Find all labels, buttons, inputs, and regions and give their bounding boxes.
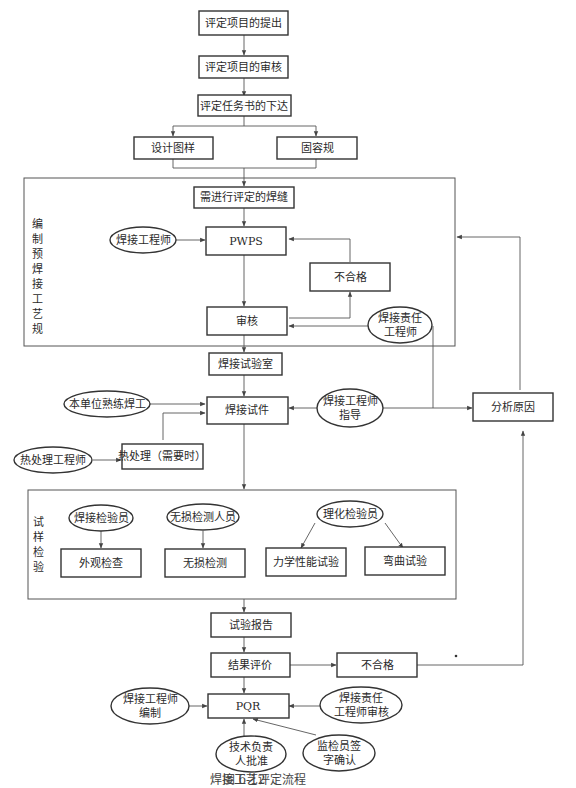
svg-text:焊接工程师: 焊接工程师: [123, 692, 178, 706]
figure-caption: 图 6-12 焊接工艺评定流程: [210, 772, 306, 787]
svg-text:力学性能试验: 力学性能试验: [273, 555, 339, 569]
step-ndt[interactable]: 无损检测: [165, 549, 245, 577]
step-review[interactable]: 评定项目的审核: [199, 56, 288, 78]
svg-text:规: 规: [32, 322, 43, 336]
svg-text:编: 编: [32, 217, 43, 231]
stray-dot: [455, 655, 458, 658]
step-visual-inspection[interactable]: 外观检查: [61, 549, 141, 577]
svg-text:编制: 编制: [139, 706, 161, 720]
svg-text:焊接工艺评定流程: 焊接工艺评定流程: [210, 772, 306, 787]
svg-text:弯曲试验: 弯曲试验: [383, 554, 427, 568]
step-analyze-cause[interactable]: 分析原因: [473, 393, 553, 421]
svg-text:理化检验员: 理化检验员: [323, 507, 378, 521]
svg-text:PQR: PQR: [236, 700, 261, 713]
svg-text:外观检查: 外观检查: [79, 556, 123, 570]
prepare-wps-group-label: 编 制 预 焊 接 工 艺 规 程: [32, 217, 43, 336]
svg-text:结果评价: 结果评价: [228, 659, 272, 672]
step-pwps-review[interactable]: 审核: [207, 307, 287, 335]
specimen-inspection-group-label: 试 样 检 验: [33, 516, 44, 574]
role-responsible-engineer-audit[interactable]: 焊接责任 工程师审核: [320, 687, 402, 723]
svg-text:评定项目的提出: 评定项目的提出: [205, 16, 282, 30]
svg-text:艺: 艺: [32, 308, 43, 321]
role-skilled-welder[interactable]: 本单位熟练焊工: [64, 391, 150, 417]
svg-text:审核: 审核: [236, 314, 258, 328]
role-weld-inspector[interactable]: 焊接检验员: [69, 505, 133, 531]
role-physchem-inspector[interactable]: 理化检验员: [317, 501, 383, 527]
svg-text:无损检测: 无损检测: [183, 556, 227, 570]
svg-text:工: 工: [32, 293, 43, 306]
step-result-evaluation[interactable]: 结果评价: [211, 653, 290, 677]
svg-text:接: 接: [32, 278, 43, 291]
step-design-drawing[interactable]: 设计图样: [134, 137, 213, 159]
step-welds-to-evaluate[interactable]: 需进行评定的焊缝: [194, 187, 294, 208]
svg-text:人批准: 人批准: [235, 754, 268, 768]
svg-text:试验报告: 试验报告: [229, 618, 273, 632]
svg-text:无损检测人员: 无损检测人员: [170, 510, 236, 524]
svg-text:固容规: 固容规: [301, 141, 334, 155]
role-ndt-personnel[interactable]: 无损检测人员: [167, 504, 239, 530]
step-mechanical-test[interactable]: 力学性能试验: [266, 548, 346, 576]
step-heat-treatment[interactable]: 热处理（需要时）: [118, 444, 206, 469]
role-responsible-engineer[interactable]: 焊接责任 工程师: [368, 307, 432, 343]
svg-text:样: 样: [33, 530, 44, 544]
step-proposal[interactable]: 评定项目的提出: [199, 11, 288, 35]
svg-text:监检员签: 监检员签: [317, 739, 361, 753]
step-bend-test[interactable]: 弯曲试验: [365, 547, 445, 575]
step-welding-lab[interactable]: 焊接试验室: [209, 353, 282, 375]
role-heat-treatment-engineer[interactable]: 热处理工程师: [14, 447, 92, 473]
welding-procedure-flowchart: 编 制 预 焊 接 工 艺 规 程 试 样 检 验: [0, 0, 576, 788]
role-welding-engineer[interactable]: 焊接工程师: [110, 227, 176, 253]
svg-text:验: 验: [33, 560, 44, 574]
svg-text:焊接试验室: 焊接试验室: [218, 357, 273, 371]
step-test-report[interactable]: 试验报告: [211, 613, 291, 637]
svg-text:不合格: 不合格: [361, 658, 394, 672]
svg-text:字确认: 字确认: [323, 753, 356, 767]
step-pqr[interactable]: PQR: [208, 694, 289, 718]
role-engineer-guidance[interactable]: 焊接工程师 指导: [317, 389, 383, 427]
step-test-piece[interactable]: 焊接试件: [207, 397, 288, 424]
svg-text:评定任务书的下达: 评定任务书的下达: [200, 99, 288, 113]
svg-text:焊接责任: 焊接责任: [378, 311, 422, 325]
svg-text:PWPS: PWPS: [229, 235, 263, 248]
svg-text:分析原因: 分析原因: [491, 400, 535, 414]
role-tech-lead-approve[interactable]: 技术负责 人批准: [216, 736, 286, 772]
step-pwps-fail[interactable]: 不合格: [310, 263, 390, 291]
svg-text:工程师审核: 工程师审核: [334, 705, 389, 719]
role-engineer-compile[interactable]: 焊接工程师 编制: [111, 688, 189, 724]
svg-text:指导: 指导: [339, 408, 361, 422]
svg-text:评定项目的审核: 评定项目的审核: [205, 60, 282, 74]
step-task-issue[interactable]: 评定任务书的下达: [198, 95, 291, 116]
svg-text:预: 预: [32, 248, 43, 261]
svg-text:焊接工程师: 焊接工程师: [323, 394, 378, 408]
svg-text:制: 制: [32, 233, 43, 246]
svg-text:焊: 焊: [32, 262, 43, 276]
step-pwps[interactable]: PWPS: [206, 227, 286, 255]
step-final-fail[interactable]: 不合格: [337, 653, 417, 677]
svg-text:不合格: 不合格: [334, 270, 367, 284]
svg-text:焊接工程师: 焊接工程师: [116, 233, 171, 247]
svg-text:技术负责: 技术负责: [229, 740, 273, 754]
svg-text:检: 检: [33, 545, 44, 559]
svg-text:试: 试: [33, 516, 44, 529]
svg-text:热处理（需要时）: 热处理（需要时）: [118, 450, 206, 463]
svg-text:焊接试件: 焊接试件: [225, 403, 269, 417]
step-regulation[interactable]: 固容规: [277, 137, 357, 159]
svg-text:本单位熟练焊工: 本单位熟练焊工: [69, 397, 146, 411]
role-supervisor-sign[interactable]: 监检员签 字确认: [303, 735, 375, 771]
svg-text:焊接检验员: 焊接检验员: [74, 511, 129, 525]
svg-text:需进行评定的焊缝: 需进行评定的焊缝: [200, 190, 288, 204]
svg-text:焊接责任: 焊接责任: [339, 691, 383, 705]
svg-text:设计图样: 设计图样: [151, 141, 195, 155]
svg-text:热处理工程师: 热处理工程师: [20, 454, 86, 467]
svg-text:工程师: 工程师: [384, 326, 417, 339]
